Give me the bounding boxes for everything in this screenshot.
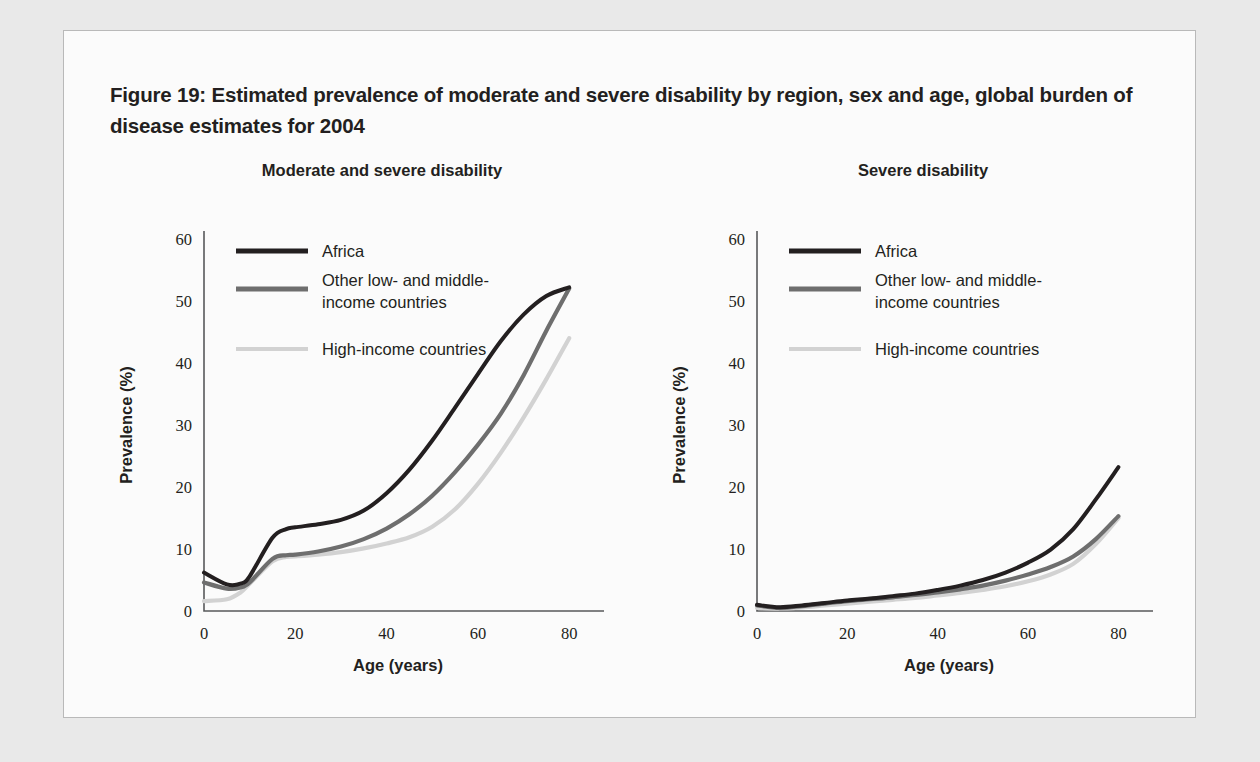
legend-label: Other low- and middle- — [875, 271, 1042, 289]
x-tick-label: 20 — [839, 624, 856, 643]
chart-svg-severe: 0102030405060020406080Prevalence (%)Age … — [649, 213, 1189, 683]
legend-label: High-income countries — [322, 340, 486, 358]
chart-title-severe: Severe disability — [649, 161, 1189, 180]
y-tick-label: 20 — [729, 478, 746, 497]
x-tick-label: 0 — [200, 624, 208, 643]
y-tick-label: 0 — [184, 602, 192, 621]
plot-area-moderate-severe: 0102030405060020406080Prevalence (%)Age … — [84, 213, 644, 683]
y-tick-label: 20 — [176, 478, 193, 497]
y-tick-label: 50 — [176, 292, 193, 311]
legend-label: income countries — [322, 293, 447, 311]
y-tick-label: 60 — [176, 230, 193, 249]
x-tick-label: 40 — [929, 624, 946, 643]
series-line-africa — [757, 467, 1118, 607]
y-tick-label: 0 — [737, 602, 745, 621]
x-tick-label: 20 — [287, 624, 304, 643]
figure-title: Figure 19: Estimated prevalence of moder… — [110, 79, 1140, 141]
x-axis-title: Age (years) — [353, 656, 443, 674]
y-tick-label: 40 — [729, 354, 746, 373]
legend-label: Other low- and middle- — [322, 271, 489, 289]
plot-area-severe: 0102030405060020406080Prevalence (%)Age … — [649, 213, 1189, 683]
y-axis-title: Prevalence (%) — [670, 366, 688, 483]
legend-label: High-income countries — [875, 340, 1039, 358]
figure-card: Figure 19: Estimated prevalence of moder… — [63, 30, 1196, 718]
legend-label: income countries — [875, 293, 1000, 311]
x-tick-label: 40 — [378, 624, 395, 643]
series-line-africa — [204, 287, 569, 585]
x-tick-label: 60 — [470, 624, 487, 643]
y-tick-label: 60 — [729, 230, 746, 249]
page-background: Figure 19: Estimated prevalence of moder… — [0, 0, 1260, 762]
y-tick-label: 30 — [176, 416, 193, 435]
y-tick-label: 50 — [729, 292, 746, 311]
y-tick-label: 10 — [176, 540, 193, 559]
y-tick-label: 40 — [176, 354, 193, 373]
chart-svg-moderate-severe: 0102030405060020406080Prevalence (%)Age … — [84, 213, 644, 683]
y-tick-label: 10 — [729, 540, 746, 559]
series-line-other_low_middle — [757, 516, 1118, 608]
chart-panel-severe: Severe disability 0102030405060020406080… — [649, 161, 1189, 681]
x-tick-label: 80 — [561, 624, 578, 643]
chart-title-moderate-severe: Moderate and severe disability — [84, 161, 644, 180]
x-tick-label: 60 — [1020, 624, 1037, 643]
x-tick-label: 80 — [1110, 624, 1127, 643]
y-tick-label: 30 — [729, 416, 746, 435]
legend-label: Africa — [875, 242, 918, 260]
x-axis-title: Age (years) — [904, 656, 994, 674]
x-tick-label: 0 — [753, 624, 761, 643]
chart-panel-moderate-severe: Moderate and severe disability 010203040… — [84, 161, 644, 681]
y-axis-title: Prevalence (%) — [117, 366, 135, 483]
legend-label: Africa — [322, 242, 365, 260]
